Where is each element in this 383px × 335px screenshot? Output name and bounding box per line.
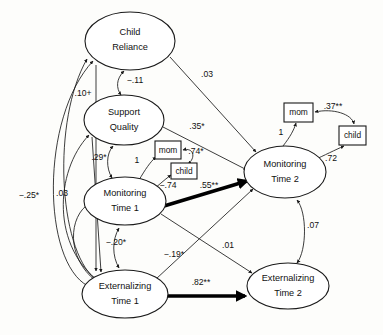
externalizing-t1-label-line1: Externalizing [99, 281, 152, 291]
mom-t1-label: mom [159, 145, 178, 155]
support-quality-label-line1: Support [108, 107, 141, 117]
coef-monitoring-t1-monitoring-t2: .55** [200, 180, 219, 190]
edge-monitoring-t1-externalizing-t1 [114, 228, 119, 268]
coef-monitoring-t2-child-loading: .72 [325, 153, 337, 163]
mom-t2-label: mom [289, 107, 308, 117]
child-reliance-ellipse [85, 12, 175, 70]
node-monitoring-time-1[interactable]: Monitoring Time 1 [84, 177, 166, 225]
coef-support-quality-monitoring-t2: .35* [189, 121, 205, 131]
coef-monitoring-t2-externalizing-t2: .07 [307, 220, 319, 230]
edge-monitoring-t2-externalizing-t2 [297, 200, 305, 263]
monitoring-t1-label-line2: Time 1 [111, 203, 139, 213]
edge-child-reliance-monitoring-t2 [170, 57, 256, 152]
child-t2-label: child [344, 130, 362, 140]
indicator-child-time-2[interactable]: child [339, 126, 366, 145]
edge-monitoring-t1-mom [139, 157, 156, 180]
node-externalizing-time-1[interactable]: Externalizing Time 1 [82, 270, 168, 318]
coef-monitoring-t1-child-loading: −.74 [160, 180, 177, 190]
edge-support-quality-monitoring-t1 [108, 146, 113, 178]
indicator-mom-time-2[interactable]: mom [284, 103, 313, 122]
child-reliance-label-line1: Child [120, 27, 141, 37]
externalizing-t2-label-line1: Externalizing [262, 273, 315, 283]
edge-mom-child-t2-covariance [315, 111, 354, 124]
edge-monitoring-t1-externalizing-t2 [161, 214, 252, 273]
edge-child-reliance-support-quality [118, 71, 124, 95]
support-quality-label-line2: Quality [110, 122, 139, 132]
node-support-quality[interactable]: Support Quality [84, 95, 164, 145]
monitoring-t2-ellipse [244, 146, 326, 198]
coef-externalizing-t1-support-quality: −.25* [19, 190, 40, 200]
monitoring-t1-label-line1: Monitoring [104, 188, 147, 198]
child-t1-label: child [175, 166, 193, 176]
indicator-child-time-1[interactable]: child [171, 163, 197, 179]
coef-externalizing-t1-monitoring-t1: .03 [56, 188, 68, 198]
node-monitoring-time-2[interactable]: Monitoring Time 2 [244, 146, 326, 198]
path-diagram-canvas: Child Reliance Support Quality Monitorin… [0, 0, 383, 335]
edge-monitoring-t2-mom [283, 123, 296, 146]
coef-mom-child-t2-covariance: .37** [324, 101, 343, 111]
coef-mom-child-t1-covariance: .74* [188, 146, 204, 156]
coef-monitoring-t1-externalizing-t2: .01 [222, 240, 234, 250]
externalizing-t2-label-line2: Time 2 [274, 288, 302, 298]
coef-monitoring-t1-mom-loading: 1 [135, 155, 140, 165]
coef-child-reliance-monitoring-t2: .03 [201, 69, 213, 79]
path-diagram-figure: Child Reliance Support Quality Monitorin… [0, 0, 383, 335]
coef-monitoring-t2-mom-loading: 1 [279, 127, 284, 137]
coef-monitoring-t1-externalizing-t1: −.20* [106, 237, 127, 247]
coef-child-reliance-support-quality: −.11 [127, 75, 144, 85]
externalizing-t1-ellipse [82, 270, 168, 318]
child-reliance-label-line2: Reliance [112, 42, 148, 52]
support-quality-ellipse [84, 95, 164, 145]
monitoring-t2-label-line1: Monitoring [264, 159, 307, 169]
monitoring-t2-label-line2: Time 2 [271, 174, 299, 184]
node-child-reliance[interactable]: Child Reliance [85, 12, 175, 70]
coef-externalizing-t1-child-reliance: .10+ [75, 88, 92, 98]
coef-support-quality-monitoring-t1: .29* [91, 152, 107, 162]
externalizing-t2-ellipse [247, 263, 329, 309]
monitoring-t1-ellipse [84, 177, 166, 225]
externalizing-t1-label-line2: Time 1 [111, 296, 139, 306]
coef-externalizing-t1-externalizing-t2: .82** [192, 277, 211, 287]
node-externalizing-time-2[interactable]: Externalizing Time 2 [247, 263, 329, 309]
indicator-mom-time-1[interactable]: mom [155, 141, 181, 159]
coef-externalizing-t1-monitoring-t2: −.19* [164, 249, 185, 259]
